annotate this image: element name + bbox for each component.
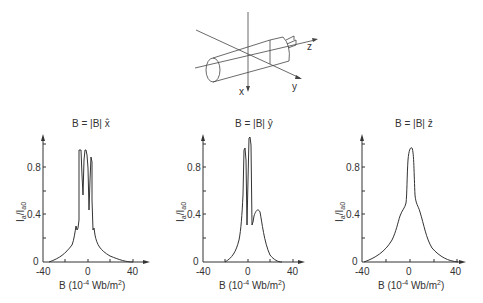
chart-title-y: B = |B| ŷ xyxy=(235,118,273,129)
diagram-x-label: x xyxy=(239,86,244,97)
ytick-0.8: 0.8 xyxy=(346,162,360,173)
ylabel: Ia/Ia0 xyxy=(175,202,187,222)
ylabel: Ia/Ia0 xyxy=(334,202,346,222)
chart-panel-y: B = |B| ŷ 0 0.4 0.8 -40 0 40 B (10-4 Wb/… xyxy=(175,118,305,291)
xtick-0: 0 xyxy=(245,266,251,277)
curve-y xyxy=(225,137,282,262)
ytick-0.8: 0.8 xyxy=(187,162,201,173)
xlabel: B (10-4 Wb/m2) xyxy=(59,279,125,291)
ytick-0.4: 0.4 xyxy=(346,209,360,220)
diagram-z-label: z xyxy=(307,41,312,52)
xtick-40: 40 xyxy=(287,266,299,277)
chart-title-x: B = |B| x̂ xyxy=(72,118,110,129)
figure-canvas: x z y B = |B| x̂ xyxy=(0,0,483,303)
xtick-0: 0 xyxy=(406,266,412,277)
xtick-40: 40 xyxy=(127,266,139,277)
ytick-0.4: 0.4 xyxy=(27,209,41,220)
chart-panel-x: B = |B| x̂ 0 0.4 0.8 -40 0 40 B (10-4 Wb… xyxy=(15,118,150,291)
xtick--40: -40 xyxy=(36,266,51,277)
curve-z xyxy=(364,148,458,262)
ytick-0.8: 0.8 xyxy=(27,162,41,173)
chart-title-z: B = |B| ẑ xyxy=(395,118,433,129)
cylinder-diagram: x z y xyxy=(195,12,318,97)
ylabel: Ia/Ia0 xyxy=(15,202,27,222)
ytick-0.4: 0.4 xyxy=(187,209,201,220)
xlabel: B (10-4 Wb/m2) xyxy=(219,279,285,291)
xtick-0: 0 xyxy=(85,266,91,277)
xtick--40: -40 xyxy=(196,266,211,277)
chart-panel-z: B = |B| ẑ 0 0.4 0.8 -40 0 40 B (10-4 Wb/… xyxy=(334,118,466,291)
diagram-y-label: y xyxy=(292,81,297,92)
xlabel: B (10-4 Wb/m2) xyxy=(378,279,444,291)
xtick--40: -40 xyxy=(355,266,370,277)
xtick-40: 40 xyxy=(450,266,462,277)
curve-x xyxy=(49,150,133,262)
